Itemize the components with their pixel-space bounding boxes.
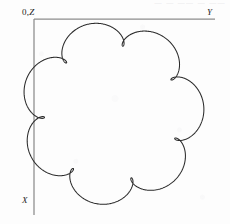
scan-bleed-artifact: — — —— — —— xyxy=(155,0,226,7)
y-axis-label: Y xyxy=(207,7,212,17)
plot-canvas xyxy=(0,0,230,224)
curve-group xyxy=(24,23,204,204)
x-axis-label: X xyxy=(22,195,28,205)
axes-group xyxy=(34,19,215,215)
origin-z-label: Z xyxy=(29,7,34,17)
epitrochoid-curve xyxy=(24,23,204,204)
figure-container: — — —— — —— 0,Z Y X xyxy=(0,0,230,224)
origin-label: 0,Z xyxy=(22,7,34,17)
